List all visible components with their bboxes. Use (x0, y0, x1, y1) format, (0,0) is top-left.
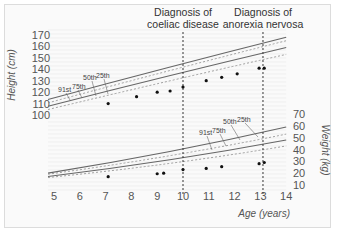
height-tick: 160 (32, 40, 50, 52)
height-point (169, 89, 172, 92)
weight-point (162, 172, 165, 175)
growth-chart: 100110120130140150160170 10203040506070 … (0, 0, 337, 238)
weight-point (205, 167, 208, 170)
height-tick: 150 (32, 52, 50, 64)
weight-axis-label: Weight (kg) (320, 125, 331, 176)
height-point (236, 72, 239, 75)
height-tick: 110 (32, 98, 50, 110)
anorexia-annotation-line2: anorexia nervosa (223, 18, 304, 30)
height-axis-label: Height (cm) (6, 49, 17, 101)
age-tick: 14 (280, 190, 292, 202)
coeliac-annotation-line2: coeliac disease (147, 18, 219, 30)
height-point (220, 76, 223, 79)
height-point (263, 67, 266, 70)
weight-label-25th: 25th (237, 116, 251, 123)
weight-tick: 40 (293, 144, 305, 156)
age-tick: 8 (128, 190, 134, 202)
height-point (156, 91, 159, 94)
weight-point (156, 172, 159, 175)
weight-label-91st: 91st (199, 129, 212, 136)
age-tick: 11 (203, 190, 214, 202)
height-point (258, 67, 261, 70)
height-axis-ticks: 100110120130140150160170 (32, 29, 50, 121)
age-tick: 10 (177, 190, 189, 202)
age-axis-ticks: 567891011121314 (51, 190, 292, 202)
height-point (107, 102, 110, 105)
weight-tick: 60 (293, 120, 305, 132)
anorexia-annotation-line1: Diagnosis of (234, 6, 292, 18)
weight-point (107, 175, 110, 178)
height-point (205, 79, 208, 82)
weight-label-50th: 50th (223, 118, 237, 125)
weight-point (263, 161, 266, 164)
age-tick: 9 (154, 190, 160, 202)
weight-tick: 20 (293, 167, 305, 179)
height-tick: 170 (32, 29, 50, 41)
age-tick: 5 (51, 190, 57, 202)
weight-point (258, 162, 261, 165)
age-tick: 12 (228, 190, 240, 202)
age-tick: 6 (77, 190, 83, 202)
height-tick: 140 (32, 63, 50, 75)
weight-label-75th: 75th (212, 127, 226, 134)
weight-tick: 10 (293, 179, 305, 191)
height-label-25th: 25th (96, 72, 110, 79)
height-tick: 130 (32, 75, 50, 87)
height-point (135, 95, 138, 98)
weight-axis-ticks: 10203040506070 (293, 108, 305, 191)
height-label-75th: 75th (72, 83, 86, 90)
height-point (181, 85, 184, 88)
weight-point (220, 165, 223, 168)
height-tick: 120 (32, 86, 50, 98)
weight-point (181, 168, 184, 171)
coeliac-annotation-line1: Diagnosis of (154, 6, 212, 18)
height-label-50th: 50th (83, 74, 97, 81)
age-axis-label: Age (years) (237, 208, 290, 219)
weight-tick: 70 (293, 108, 305, 120)
weight-tick: 50 (293, 132, 305, 144)
weight-tick: 30 (293, 155, 305, 167)
age-tick: 7 (103, 190, 109, 202)
height-tick: 100 (32, 109, 50, 121)
height-label-91st: 91st (58, 86, 71, 93)
gridlines (48, 30, 286, 190)
age-tick: 13 (254, 190, 266, 202)
